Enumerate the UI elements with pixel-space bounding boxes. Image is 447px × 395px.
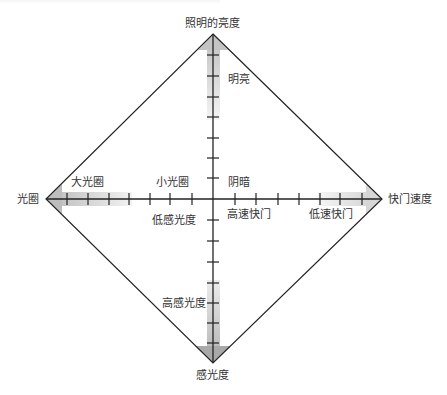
label-bright: 明亮 (228, 73, 250, 86)
label-fast-shutter: 高速快门 (227, 208, 271, 221)
axis-label-top: 照明的亮度 (185, 17, 240, 30)
label-low-iso: 低感光度 (152, 214, 196, 227)
axis-label-left: 光圈 (17, 193, 39, 206)
label-slow-shutter: 低速快门 (309, 208, 353, 221)
label-small-aperture: 小光圈 (156, 176, 189, 189)
exposure-diamond-diagram: 照明的亮度 光圈 快门速度 感光度 明亮 阴暗 大光圈 小光圈 高速快门 低速快… (0, 0, 447, 395)
label-high-iso: 高感光度 (162, 297, 206, 310)
axis-label-bottom: 感光度 (196, 369, 229, 382)
label-dark: 阴暗 (228, 176, 250, 189)
label-large-aperture: 大光圈 (71, 176, 104, 189)
axis-label-right: 快门速度 (388, 193, 432, 206)
diagram-graphic (0, 0, 447, 395)
